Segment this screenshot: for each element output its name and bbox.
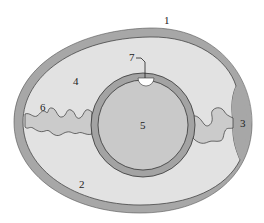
label-3: 3 xyxy=(240,117,246,129)
egg-diagram: 1 2 3 4 5 6 7 xyxy=(0,0,264,223)
label-7: 7 xyxy=(129,51,135,63)
label-6: 6 xyxy=(40,101,46,113)
label-2: 2 xyxy=(79,178,85,190)
label-1: 1 xyxy=(164,14,170,26)
label-4: 4 xyxy=(73,75,79,87)
label-5: 5 xyxy=(140,119,146,131)
